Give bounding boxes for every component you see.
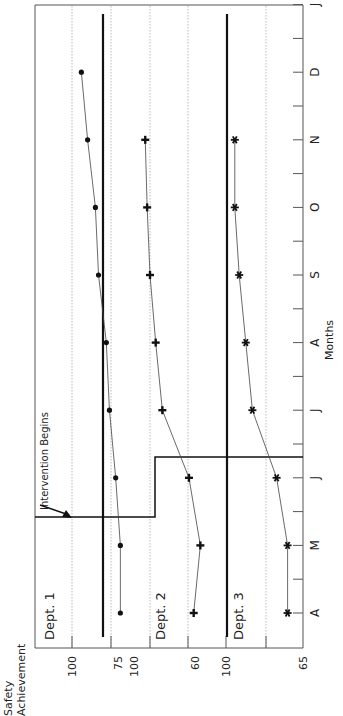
- data-point-circle: [79, 70, 84, 75]
- data-point-circle: [85, 137, 90, 142]
- series-line-2: [145, 140, 200, 613]
- data-point-circle: [96, 272, 101, 277]
- y-axis-title-line1: Safety: [2, 680, 15, 716]
- data-point-plus: [141, 136, 149, 144]
- month-tick-label: N: [308, 135, 322, 144]
- intervention-label: Intervention Begins: [39, 412, 50, 510]
- month-tick-label: J: [308, 408, 322, 413]
- month-tick-label: J: [308, 476, 322, 481]
- month-tick-label: A: [308, 338, 322, 347]
- data-point-plus: [190, 609, 198, 617]
- intervention-arrow-head: [62, 510, 72, 518]
- month-tick-label: A: [308, 608, 322, 617]
- data-point-circle: [93, 205, 98, 210]
- multiple-baseline-chart: AMJJASONDJ 100751006010065 Dept. 1 Dept.…: [0, 0, 343, 716]
- intervention-phase-line: [35, 457, 303, 517]
- y-axis-title-line2: Achievement: [15, 643, 28, 716]
- month-tick-label: S: [308, 271, 322, 279]
- month-tick-label: J: [308, 3, 322, 8]
- data-point-plus: [146, 271, 154, 279]
- value-tick-label: 75: [112, 656, 125, 670]
- value-tick-label: 100: [220, 656, 233, 677]
- value-tick-label: 65: [297, 656, 310, 670]
- data-point-circle: [104, 340, 109, 345]
- month-tick-label: O: [308, 203, 322, 212]
- value-tick-label: 100: [66, 656, 79, 677]
- series-line-1: [81, 72, 120, 613]
- data-point-plus: [196, 541, 204, 549]
- series-line-3: [235, 140, 288, 613]
- value-tick-label: 100: [128, 656, 141, 677]
- data-point-plus: [158, 406, 166, 414]
- month-tick-label: D: [308, 68, 322, 77]
- panel-label-dept-1: Dept. 1: [42, 592, 57, 640]
- value-tick-label: 60: [189, 656, 202, 670]
- data-point-circle: [113, 475, 118, 480]
- data-point-circle: [118, 610, 123, 615]
- x-axis-title: Months: [323, 320, 336, 360]
- data-point-circle: [118, 543, 123, 548]
- data-point-plus: [152, 339, 160, 347]
- data-point-plus: [185, 474, 193, 482]
- data-point-circle: [107, 408, 112, 413]
- panel-label-dept-3: Dept. 3: [231, 592, 246, 640]
- month-tick-label: M: [308, 540, 322, 550]
- panel-label-dept-2: Dept. 2: [153, 592, 168, 640]
